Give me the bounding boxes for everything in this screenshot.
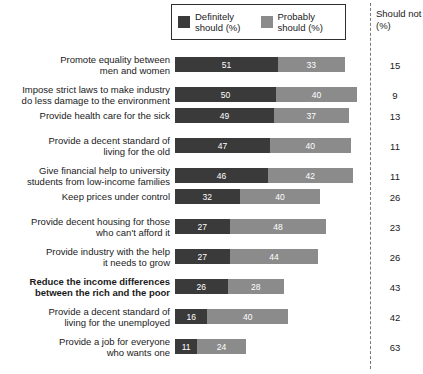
bar-segment-probably: 24	[197, 339, 245, 354]
should-not-value: 23	[376, 221, 414, 232]
row-label: Provide a decent standard of living for …	[2, 134, 170, 157]
stacked-bar: 1124	[175, 339, 246, 354]
should-not-value: 43	[376, 281, 414, 292]
chart-rows: Promote equality between men and women51…	[0, 44, 423, 356]
bar-segment-definitely: 49	[175, 108, 274, 123]
stacked-bar: 1640	[175, 309, 288, 324]
row-label: Impose strict laws to make industry do l…	[2, 83, 170, 106]
bar-segment-probably: 42	[268, 168, 353, 183]
legend-entry-probably: Probably should (%)	[257, 11, 340, 33]
bar-segment-definitely: 16	[175, 309, 207, 324]
chart-row: Provide industry with the help it needs …	[0, 236, 423, 266]
bar-segment-probably: 40	[240, 189, 321, 204]
chart-row: Provide health care for the sick493713	[0, 104, 423, 125]
bar-segment-definitely: 50	[175, 87, 276, 102]
stacked-bar: 2628	[175, 279, 284, 294]
should-not-value: 42	[376, 311, 414, 322]
row-label: Provide a job for everyone who wants one	[2, 335, 170, 358]
legend-label-definitely: Definitely should (%)	[195, 11, 257, 33]
stacked-bar: 3240	[175, 189, 320, 204]
legend-swatch-definitely-icon	[178, 16, 190, 28]
bar-segment-definitely: 32	[175, 189, 240, 204]
chart-row: Give financial help to university studen…	[0, 155, 423, 185]
bar-segment-probably: 33	[278, 57, 345, 72]
bar-segment-probably: 48	[230, 219, 327, 234]
should-not-value: 13	[376, 110, 414, 121]
bar-segment-definitely: 26	[175, 279, 228, 294]
bar-segment-definitely: 27	[175, 219, 230, 234]
stacked-bar: 4642	[175, 168, 353, 183]
should-not-column-header: Should not (%)	[376, 8, 422, 31]
should-not-value: 11	[376, 170, 414, 181]
row-label: Keep prices under control	[2, 191, 170, 202]
stacked-bar: 4937	[175, 108, 349, 123]
chart-row: Impose strict laws to make industry do l…	[0, 74, 423, 104]
bar-segment-definitely: 47	[175, 138, 270, 153]
bar-segment-probably: 37	[274, 108, 349, 123]
chart-row: Provide decent housing for those who can…	[0, 206, 423, 236]
chart-row: Reduce the income differences between th…	[0, 266, 423, 296]
row-label: Give financial help to university studen…	[2, 164, 170, 187]
bar-segment-probably: 44	[230, 249, 319, 264]
chart-row: Provide a job for everyone who wants one…	[0, 326, 423, 356]
chart-row: Keep prices under control324026	[0, 185, 423, 206]
legend: Definitely should (%) Probably should (%…	[171, 4, 346, 40]
should-not-value: 9	[376, 89, 414, 100]
bar-segment-probably: 40	[276, 87, 357, 102]
bar-segment-probably: 28	[228, 279, 285, 294]
bar-segment-probably: 40	[207, 309, 288, 324]
chart-row: Provide a decent standard of living for …	[0, 296, 423, 326]
should-not-value: 26	[376, 251, 414, 262]
legend-label-probably: Probably should (%)	[278, 11, 340, 33]
row-label: Provide a decent standard of living for …	[2, 305, 170, 328]
chart-row: Provide a decent standard of living for …	[0, 125, 423, 155]
stacked-bar: 5040	[175, 87, 357, 102]
chart-row: Promote equality between men and women51…	[0, 44, 423, 74]
row-label: Provide industry with the help it needs …	[2, 245, 170, 268]
legend-entry-definitely: Definitely should (%)	[178, 11, 257, 33]
row-label: Provide decent housing for those who can…	[2, 215, 170, 238]
legend-swatch-probably-icon	[261, 16, 273, 28]
bar-segment-definitely: 46	[175, 168, 268, 183]
bar-segment-definitely: 11	[175, 339, 197, 354]
should-not-value: 26	[376, 191, 414, 202]
stacked-bar: 5133	[175, 57, 345, 72]
should-not-value: 15	[376, 59, 414, 70]
row-label: Provide health care for the sick	[2, 110, 170, 121]
stacked-bar: 2744	[175, 249, 318, 264]
row-label: Reduce the income differences between th…	[2, 275, 170, 298]
should-not-value: 63	[376, 341, 414, 352]
bar-segment-definitely: 51	[175, 57, 278, 72]
stacked-bar: 4740	[175, 138, 351, 153]
bar-segment-definitely: 27	[175, 249, 230, 264]
stacked-bar: 2748	[175, 219, 326, 234]
row-label: Promote equality between men and women	[2, 53, 170, 76]
bar-segment-probably: 40	[270, 138, 351, 153]
should-not-value: 11	[376, 140, 414, 151]
